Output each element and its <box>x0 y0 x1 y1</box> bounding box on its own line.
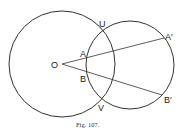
line-o-a-prime <box>62 38 164 64</box>
figure-caption: Fig. 107. <box>76 121 100 128</box>
label-a-prime: A′ <box>165 32 173 42</box>
label-a: A <box>80 49 86 59</box>
label-o: O <box>51 60 58 70</box>
label-b: B <box>80 74 86 84</box>
label-b-prime: B′ <box>164 95 172 105</box>
circle-through-a-b <box>86 21 174 109</box>
geometry-diagram: O A B U V A′ B′ Fig. 107. <box>0 0 184 134</box>
label-v: V <box>98 103 104 113</box>
figure-107: O A B U V A′ B′ Fig. 107. <box>0 0 184 134</box>
label-u: U <box>99 19 106 29</box>
line-o-b-prime <box>62 64 162 95</box>
